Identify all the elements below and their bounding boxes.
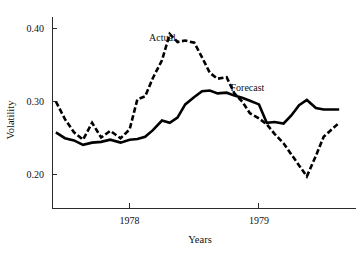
x-tick-label: 1979 xyxy=(249,215,269,226)
y-axis-title: Volatility xyxy=(5,100,16,140)
series-annotation-forecast: Forecast xyxy=(231,82,265,93)
series-line-actual xyxy=(56,34,339,177)
volatility-chart: 0.200.300.40 19781979 Volatility Years A… xyxy=(0,0,364,254)
y-tick-label: 0.20 xyxy=(27,169,45,180)
series-annotation-actual: Actual xyxy=(149,32,176,43)
chart-canvas: 0.200.300.40 19781979 Volatility Years A… xyxy=(0,0,364,254)
series-line-forecast xyxy=(56,90,339,144)
x-axis-title: Years xyxy=(188,234,211,245)
x-tick-label: 1978 xyxy=(120,215,140,226)
series-group xyxy=(56,34,339,177)
y-tick-label: 0.30 xyxy=(27,96,45,107)
series-annotations: ActualForecast xyxy=(149,32,265,94)
axes-group xyxy=(52,17,356,208)
x-tick-group: 19781979 xyxy=(120,203,269,226)
y-tick-label: 0.40 xyxy=(27,23,45,34)
